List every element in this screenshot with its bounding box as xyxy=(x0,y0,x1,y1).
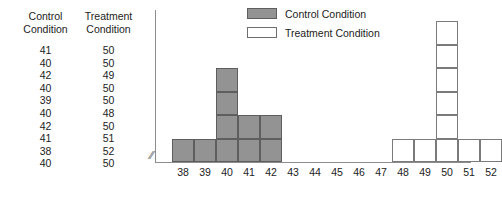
column-header-treatment-line1: Treatment xyxy=(77,10,140,23)
chart-legend: Control Condition Treatment Condition xyxy=(247,5,427,43)
bar-unit-cell xyxy=(480,139,502,163)
x-tick-48: 48 xyxy=(392,166,414,179)
table-row: 4050 xyxy=(14,157,140,170)
bar-unit-cell xyxy=(260,115,282,139)
cell-treatment-value: 50 xyxy=(77,120,140,133)
bar-unit-cell xyxy=(436,139,458,163)
legend-swatch-treatment-icon xyxy=(247,27,277,38)
bar-unit-cell xyxy=(436,21,458,45)
cell-control-value: 40 xyxy=(14,107,77,120)
bar-unit-cell xyxy=(238,139,260,163)
bar-treatment-50 xyxy=(436,21,458,162)
x-tick-45: 45 xyxy=(326,166,348,179)
column-header-control: Control Condition xyxy=(14,10,77,35)
bar-unit-cell xyxy=(238,115,260,139)
cell-treatment-value: 52 xyxy=(77,145,140,158)
bar-unit-cell xyxy=(436,92,458,116)
cell-treatment-value: 50 xyxy=(77,82,140,95)
cell-control-value: 40 xyxy=(14,157,77,170)
bar-unit-cell xyxy=(260,139,282,163)
x-tick-51: 51 xyxy=(458,166,480,179)
bar-unit-cell xyxy=(392,139,414,163)
bar-control-40 xyxy=(216,68,238,162)
table-row: 4151 xyxy=(14,132,140,145)
x-tick-43: 43 xyxy=(282,166,304,179)
bar-control-39 xyxy=(194,139,216,163)
bar-unit-cell xyxy=(216,115,238,139)
legend-item-treatment: Treatment Condition xyxy=(247,24,427,41)
axis-break-icon: // xyxy=(147,150,154,161)
bar-unit-cell xyxy=(216,139,238,163)
bar-treatment-49 xyxy=(414,139,436,163)
table-row: 4150 xyxy=(14,44,140,57)
legend-swatch-control-icon xyxy=(247,8,277,19)
x-axis-line xyxy=(155,162,471,163)
cell-control-value: 41 xyxy=(14,132,77,145)
table-row: 3950 xyxy=(14,94,140,107)
x-tick-44: 44 xyxy=(304,166,326,179)
bar-unit-cell xyxy=(414,139,436,163)
bar-unit-cell xyxy=(458,139,480,163)
x-tick-41: 41 xyxy=(238,166,260,179)
histogram-chart: // 383940414243444546474849505152 Contro… xyxy=(146,0,479,200)
table-row: 4050 xyxy=(14,82,140,95)
cell-treatment-value: 48 xyxy=(77,107,140,120)
cell-treatment-value: 49 xyxy=(77,69,140,82)
x-tick-40: 40 xyxy=(216,166,238,179)
bar-unit-cell xyxy=(172,139,194,163)
cell-control-value: 41 xyxy=(14,44,77,57)
cell-treatment-value: 51 xyxy=(77,132,140,145)
cell-control-value: 42 xyxy=(14,69,77,82)
x-tick-38: 38 xyxy=(172,166,194,179)
legend-label-control: Control Condition xyxy=(285,8,366,20)
cell-treatment-value: 50 xyxy=(77,94,140,107)
bar-unit-cell xyxy=(216,68,238,92)
bar-treatment-52 xyxy=(480,139,502,163)
x-tick-49: 49 xyxy=(414,166,436,179)
bar-unit-cell xyxy=(436,115,458,139)
legend-label-treatment: Treatment Condition xyxy=(285,27,380,39)
column-header-treatment-line2: Condition xyxy=(77,23,140,36)
bar-unit-cell xyxy=(194,139,216,163)
data-table: Control Condition Treatment Condition 41… xyxy=(14,10,140,170)
cell-control-value: 40 xyxy=(14,57,77,70)
table-row: 4050 xyxy=(14,57,140,70)
column-header-control-line2: Condition xyxy=(14,23,77,36)
table-row: 4250 xyxy=(14,120,140,133)
legend-item-control: Control Condition xyxy=(247,5,427,22)
cell-control-value: 40 xyxy=(14,82,77,95)
bar-control-42 xyxy=(260,115,282,162)
table-row: 4249 xyxy=(14,69,140,82)
bar-treatment-48 xyxy=(392,139,414,163)
table-row: 3852 xyxy=(14,145,140,158)
bar-control-41 xyxy=(238,115,260,162)
x-tick-50: 50 xyxy=(436,166,458,179)
x-tick-39: 39 xyxy=(194,166,216,179)
bar-unit-cell xyxy=(436,68,458,92)
bar-treatment-51 xyxy=(458,139,480,163)
table-header-row: Control Condition Treatment Condition xyxy=(14,10,140,35)
table-row: 4048 xyxy=(14,107,140,120)
cell-treatment-value: 50 xyxy=(77,44,140,57)
cell-control-value: 38 xyxy=(14,145,77,158)
column-header-control-line1: Control xyxy=(14,10,77,23)
cell-treatment-value: 50 xyxy=(77,57,140,70)
cell-control-value: 42 xyxy=(14,120,77,133)
bar-unit-cell xyxy=(216,92,238,116)
bar-control-38 xyxy=(172,139,194,163)
table-body: 4150405042494050395040484250415138524050 xyxy=(14,44,140,170)
column-header-treatment: Treatment Condition xyxy=(77,10,140,35)
x-tick-46: 46 xyxy=(348,166,370,179)
y-axis-line xyxy=(155,10,156,162)
x-tick-52: 52 xyxy=(480,166,502,179)
x-tick-47: 47 xyxy=(370,166,392,179)
cell-control-value: 39 xyxy=(14,94,77,107)
cell-treatment-value: 50 xyxy=(77,157,140,170)
x-tick-42: 42 xyxy=(260,166,282,179)
bar-unit-cell xyxy=(436,45,458,69)
